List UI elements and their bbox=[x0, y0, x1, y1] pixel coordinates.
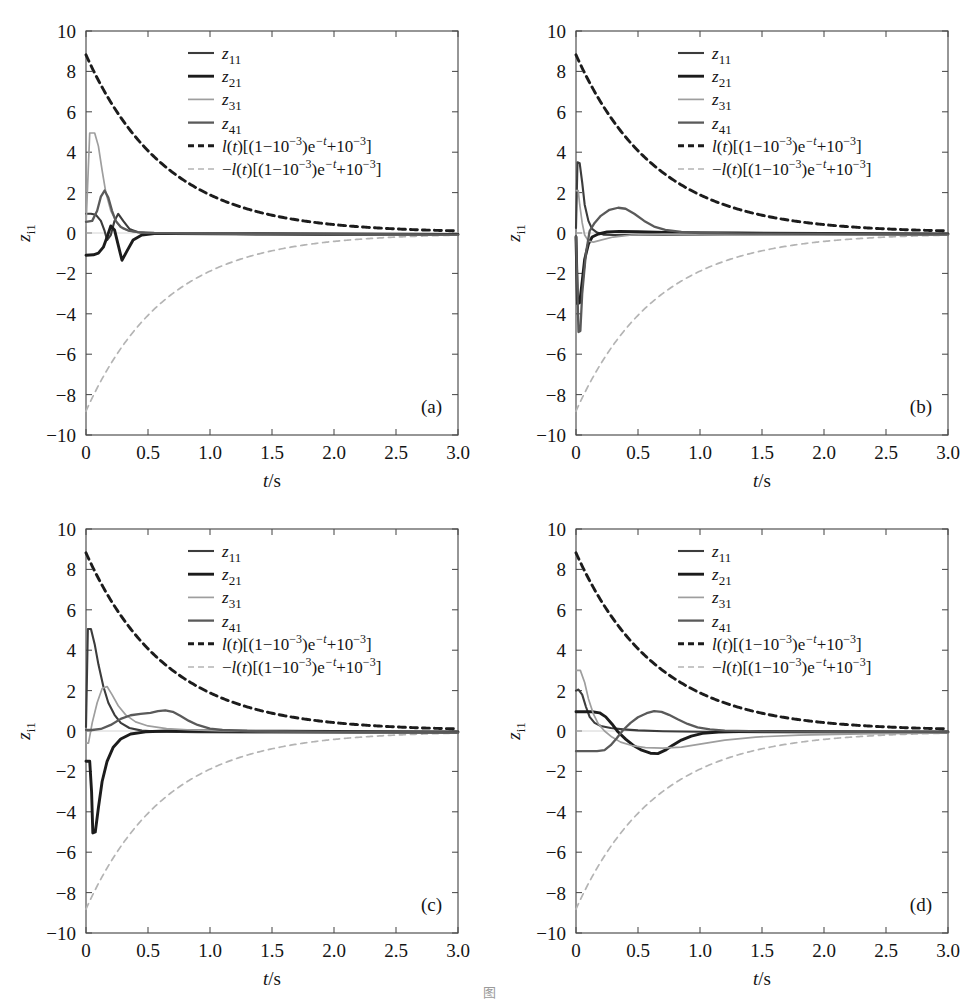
legend: z11z21z31z41l(t)[(1−10−3)e−t+10−3]−l(t)[… bbox=[188, 44, 381, 179]
y-tick-label: −6 bbox=[56, 344, 76, 365]
x-tick-label: 2.0 bbox=[322, 940, 346, 961]
y-tick-label: −4 bbox=[546, 802, 567, 823]
y-axis-label: zi1 bbox=[13, 722, 38, 741]
x-tick-label: 0.5 bbox=[136, 940, 160, 961]
figure-caption: 图 bbox=[0, 982, 979, 1003]
x-tick-label: 1.5 bbox=[750, 940, 774, 961]
panel-label: (b) bbox=[910, 396, 932, 418]
curve-lower-bound bbox=[86, 235, 458, 411]
legend-label-upper_bound: l(t)[(1−10−3)e−t+10−3] bbox=[712, 632, 862, 654]
x-tick-label: 1.0 bbox=[688, 940, 712, 961]
y-tick-label: 0 bbox=[557, 223, 567, 244]
curve-z21 bbox=[576, 231, 948, 303]
y-tick-label: 10 bbox=[547, 21, 566, 42]
x-tick-label: 0 bbox=[81, 940, 91, 961]
x-tick-label: 2.0 bbox=[812, 442, 836, 463]
panel-label: (d) bbox=[910, 894, 932, 916]
y-tick-label: 2 bbox=[557, 681, 567, 702]
x-tick-label: 1.5 bbox=[260, 442, 284, 463]
y-tick-label: 10 bbox=[57, 519, 76, 540]
curve-z41 bbox=[576, 208, 948, 332]
plot-d: 00.51.01.52.02.53.01086420−2−4−6−8−10t/s… bbox=[490, 498, 979, 988]
panel-label: (a) bbox=[421, 396, 442, 418]
y-tick-label: 8 bbox=[67, 559, 77, 580]
y-tick-label: −8 bbox=[56, 883, 76, 904]
y-tick-label: 10 bbox=[547, 519, 566, 540]
panel-d: 00.51.01.52.02.53.01086420−2−4−6−8−10t/s… bbox=[490, 498, 979, 988]
legend: z11z21z31z41l(t)[(1−10−3)e−t+10−3]−l(t)[… bbox=[678, 542, 871, 677]
y-tick-label: 4 bbox=[67, 640, 77, 661]
y-tick-label: 6 bbox=[557, 600, 567, 621]
legend-label-z31: z31 bbox=[221, 588, 242, 611]
y-tick-label: 2 bbox=[67, 183, 77, 204]
y-tick-label: 2 bbox=[557, 183, 567, 204]
x-axis-label: t/s bbox=[753, 470, 771, 490]
legend-label-z11: z11 bbox=[221, 542, 241, 565]
curve-z21 bbox=[86, 226, 458, 260]
legend-label-upper_bound: l(t)[(1−10−3)e−t+10−3] bbox=[222, 632, 372, 654]
legend-label-z21: z21 bbox=[711, 565, 732, 588]
panel-label: (c) bbox=[421, 894, 442, 916]
x-tick-label: 3.0 bbox=[936, 940, 960, 961]
legend-label-z31: z31 bbox=[711, 90, 732, 113]
legend-label-z21: z21 bbox=[221, 67, 242, 90]
legend-label-z11: z11 bbox=[711, 44, 731, 67]
y-tick-label: 4 bbox=[557, 640, 567, 661]
y-tick-label: −4 bbox=[56, 802, 77, 823]
x-tick-label: 0.5 bbox=[626, 442, 650, 463]
y-tick-label: 8 bbox=[557, 559, 567, 580]
legend-label-lower_bound: −l(t)[(1−10−3)e−t+10−3] bbox=[222, 655, 381, 677]
y-tick-label: −2 bbox=[546, 263, 566, 284]
y-tick-label: −2 bbox=[56, 761, 76, 782]
y-tick-label: −4 bbox=[546, 304, 567, 325]
y-tick-label: −6 bbox=[546, 344, 566, 365]
curve-z21 bbox=[86, 731, 458, 833]
y-tick-label: 6 bbox=[67, 600, 77, 621]
legend-label-z41: z41 bbox=[221, 612, 242, 635]
curve-lower-bound bbox=[576, 733, 948, 909]
y-tick-label: −6 bbox=[56, 842, 76, 863]
y-axis-label: zi1 bbox=[13, 224, 38, 243]
y-tick-label: −8 bbox=[546, 385, 566, 406]
legend-label-lower_bound: −l(t)[(1−10−3)e−t+10−3] bbox=[712, 655, 871, 677]
legend: z11z21z31z41l(t)[(1−10−3)e−t+10−3]−l(t)[… bbox=[678, 44, 871, 179]
y-tick-label: −10 bbox=[46, 923, 76, 944]
x-tick-label: 2.5 bbox=[384, 442, 408, 463]
y-tick-label: −10 bbox=[536, 923, 566, 944]
x-tick-label: 1.5 bbox=[750, 442, 774, 463]
y-tick-label: −2 bbox=[56, 263, 76, 284]
legend-label-z31: z31 bbox=[711, 588, 732, 611]
legend-label-z11: z11 bbox=[711, 542, 731, 565]
figure-root: 00.51.01.52.02.53.01086420−2−4−6−8−10t/s… bbox=[0, 0, 979, 1003]
plot-c: 00.51.01.52.02.53.01086420−2−4−6−8−10t/s… bbox=[0, 498, 489, 988]
x-tick-label: 3.0 bbox=[936, 442, 960, 463]
x-tick-label: 1.0 bbox=[198, 442, 222, 463]
y-tick-label: −4 bbox=[56, 304, 77, 325]
x-tick-label: 2.5 bbox=[874, 940, 898, 961]
legend-label-z41: z41 bbox=[711, 114, 732, 137]
y-tick-label: 2 bbox=[67, 681, 77, 702]
plot-a: 00.51.01.52.02.53.01086420−2−4−6−8−10t/s… bbox=[0, 0, 489, 490]
y-tick-label: −10 bbox=[536, 425, 566, 446]
legend-label-lower_bound: −l(t)[(1−10−3)e−t+10−3] bbox=[712, 157, 871, 179]
x-tick-label: 3.0 bbox=[446, 442, 470, 463]
y-tick-label: −8 bbox=[56, 385, 76, 406]
curve-z31 bbox=[576, 670, 948, 748]
x-axis-label: t/s bbox=[263, 470, 281, 490]
y-tick-label: 8 bbox=[557, 61, 567, 82]
x-tick-label: 0.5 bbox=[136, 442, 160, 463]
y-tick-label: 8 bbox=[67, 61, 77, 82]
x-tick-label: 2.5 bbox=[384, 940, 408, 961]
legend-label-z41: z41 bbox=[221, 114, 242, 137]
y-axis-label: zi1 bbox=[503, 224, 528, 243]
panel-c: 00.51.01.52.02.53.01086420−2−4−6−8−10t/s… bbox=[0, 498, 489, 988]
x-tick-label: 3.0 bbox=[446, 940, 470, 961]
legend-label-upper_bound: l(t)[(1−10−3)e−t+10−3] bbox=[712, 134, 862, 156]
x-tick-label: 0 bbox=[571, 940, 581, 961]
y-axis-label: zi1 bbox=[503, 722, 528, 741]
y-tick-label: 4 bbox=[557, 142, 567, 163]
y-tick-label: −2 bbox=[546, 761, 566, 782]
curve-lower-bound bbox=[576, 235, 948, 411]
panel-a: 00.51.01.52.02.53.01086420−2−4−6−8−10t/s… bbox=[0, 0, 489, 490]
legend-label-z11: z11 bbox=[221, 44, 241, 67]
